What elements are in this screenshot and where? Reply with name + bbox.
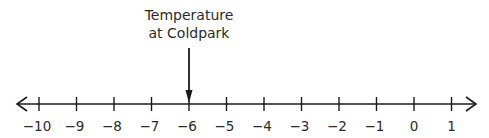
annotation-line-1: Temperature — [144, 7, 234, 23]
number-line-diagram: Temperature at Coldpark −10−9−8−7−6−5−4−… — [0, 0, 489, 138]
tick-label: −9 — [65, 118, 85, 134]
tick-label: −4 — [252, 118, 272, 134]
tick-label: −10 — [23, 118, 52, 134]
tick-label: −1 — [365, 118, 385, 134]
tick-label: −2 — [327, 118, 347, 134]
tick-labels: −10−9−8−7−6−5−4−3−2−101 — [23, 118, 456, 134]
tick-label: −7 — [140, 118, 160, 134]
tick-label: −8 — [102, 118, 122, 134]
annotation-line-2: at Coldpark — [149, 25, 231, 41]
tick-label: −3 — [290, 118, 310, 134]
tick-label: −6 — [177, 118, 197, 134]
tick-label: 0 — [410, 118, 419, 134]
pointer-arrow-icon — [186, 48, 193, 103]
tick-label: 1 — [447, 118, 456, 134]
tick-label: −5 — [215, 118, 235, 134]
